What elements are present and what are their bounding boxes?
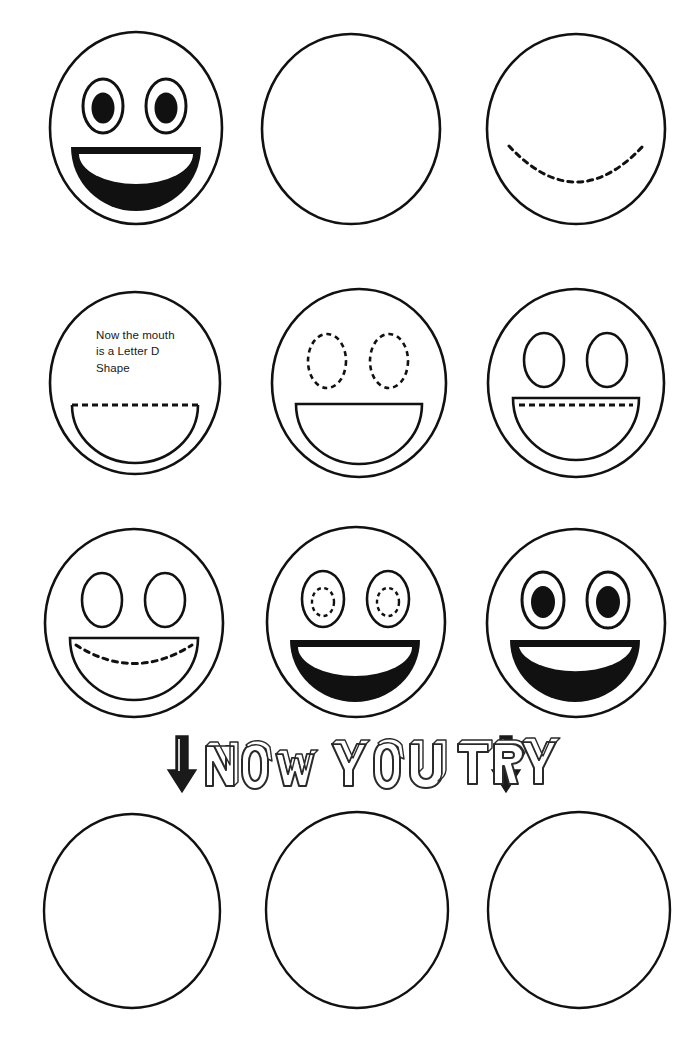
- now-you-try-banner: [0, 730, 700, 802]
- face-outline: [487, 34, 665, 224]
- face-r2c2-dashed-oval-eyes-step[interactable]: [268, 284, 450, 482]
- right-eye-outline: [587, 333, 627, 387]
- left-eye-pupil: [92, 93, 115, 124]
- face-r4c3-practice-face-outline[interactable]: [484, 808, 674, 1012]
- down-arrow-icon-left: [168, 736, 196, 792]
- left-eye-pupil: [531, 586, 555, 618]
- left-eye-outline: [524, 333, 564, 387]
- left-eye-dashed-pupil: [312, 588, 334, 616]
- right-eye-dashed-oval: [370, 334, 408, 388]
- face-r3c2-dashed-pupils-step[interactable]: [262, 522, 450, 722]
- face-r3c1-dashed-teeth-curve-step[interactable]: [40, 524, 228, 722]
- face-outline: [44, 814, 220, 1008]
- face-r2c1-letter-d-mouth-step[interactable]: [46, 288, 224, 478]
- face-r2c3-dashed-lip-line-step[interactable]: [484, 284, 668, 482]
- caption-letter-d-shape: Now the mouth is a Letter D Shape: [96, 327, 216, 376]
- face-outline: [488, 812, 670, 1008]
- left-eye-dashed-oval: [308, 334, 346, 388]
- right-eye-pupil: [155, 93, 178, 124]
- face-outline: [266, 812, 448, 1008]
- right-eye-dashed-pupil: [377, 588, 399, 616]
- face-r4c2-practice-face-outline[interactable]: [262, 808, 452, 1012]
- face-r1c3-dashed-smile-guide[interactable]: [483, 30, 669, 228]
- face-r1c1-completed-smiley-face[interactable]: [46, 28, 226, 228]
- right-eye-pupil: [596, 586, 620, 618]
- left-eye-outline: [82, 573, 122, 627]
- face-r1c2-empty-face-outline[interactable]: [258, 30, 444, 228]
- right-eye-outline: [145, 573, 185, 627]
- worksheet-page: Now the mouth is a Letter D Shape: [0, 0, 700, 1060]
- face-outline: [262, 34, 440, 224]
- face-r4c1-practice-face-outline[interactable]: [40, 810, 224, 1012]
- face-outline: [50, 292, 220, 474]
- face-r3c3-completed-smiley-face[interactable]: [482, 524, 670, 722]
